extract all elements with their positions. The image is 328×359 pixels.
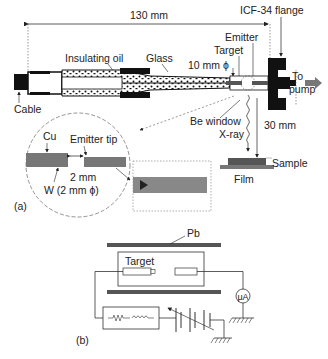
panel-b: Pb Target μA (b) (76, 227, 254, 346)
target-b-label: Target (125, 255, 154, 267)
cu-label: Cu (43, 130, 57, 142)
glass-label: Glass (146, 52, 173, 64)
to-label: To (292, 70, 303, 82)
film-label: Film (234, 173, 254, 185)
xray-label: X-ray (219, 128, 245, 140)
variable-battery-icon (168, 308, 214, 332)
cable-connector (14, 74, 28, 90)
panel-a: 130 mm ICF-34 flange Insulating oil Glas… (14, 4, 322, 217)
ammeter-label: μA (237, 292, 248, 302)
be-window-label: Be window (190, 115, 241, 127)
ground-icon-2 (211, 338, 230, 343)
ground-icon (229, 318, 252, 323)
emitter-tip-label: Emitter tip (70, 133, 117, 145)
sample (228, 158, 266, 165)
emitter-label: Emitter (225, 31, 259, 43)
gap-label: 2 mm (70, 171, 97, 183)
insulating-oil-label: Insulating oil (65, 52, 123, 64)
figure-canvas: 130 mm ICF-34 flange Insulating oil Glas… (0, 0, 328, 359)
pump-label: pump (289, 83, 315, 95)
distance-label: 30 mm (264, 119, 296, 131)
diameter-label: 10 mm ϕ (188, 59, 229, 71)
sample-label: Sample (272, 157, 308, 169)
xray-wave (247, 95, 250, 151)
length-label: 130 mm (130, 9, 168, 21)
target-label: Target (214, 44, 243, 56)
tip-zoom-box (133, 161, 211, 211)
panel-a-label: (a) (14, 200, 27, 212)
pb-shield-bottom (107, 290, 221, 294)
pb-label: Pb (187, 227, 200, 239)
panel-b-label: (b) (76, 334, 89, 346)
w-label: W (2 mm ϕ) (44, 184, 99, 196)
flange-label: ICF-34 flange (240, 4, 304, 16)
xray-tube (14, 58, 322, 110)
emitter-inset: Cu Emitter tip 2 mm W (2 mm ϕ) (26, 113, 130, 217)
pb-shield-top (107, 243, 221, 247)
cable-label: Cable (14, 103, 42, 115)
film (220, 165, 274, 169)
